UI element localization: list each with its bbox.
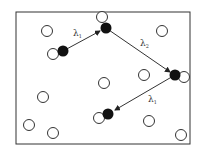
rate-label: λ1 xyxy=(148,94,157,105)
empty-site-circle xyxy=(99,78,110,89)
occupied-site-circle xyxy=(101,23,112,34)
rate-label: λ1 xyxy=(73,28,82,39)
hopping-diagram: λ1λ2λ1 xyxy=(0,0,201,155)
empty-site-circle xyxy=(48,128,59,139)
empty-site-circle xyxy=(42,26,53,37)
occupied-site-circle xyxy=(58,46,69,57)
empty-site-circle xyxy=(139,70,150,81)
empty-site-circle xyxy=(38,92,49,103)
occupied-site-circle xyxy=(170,70,181,81)
empty-site-circle xyxy=(157,26,168,37)
empty-site-circle xyxy=(48,49,59,60)
empty-site-circle xyxy=(144,116,155,127)
occupied-site-circle xyxy=(103,109,114,120)
hop-arrows xyxy=(63,28,175,110)
empty-site-circle xyxy=(24,120,35,131)
empty-site-circle xyxy=(97,12,108,23)
empty-site-circle xyxy=(176,130,187,141)
rate-label: λ2 xyxy=(140,38,149,49)
